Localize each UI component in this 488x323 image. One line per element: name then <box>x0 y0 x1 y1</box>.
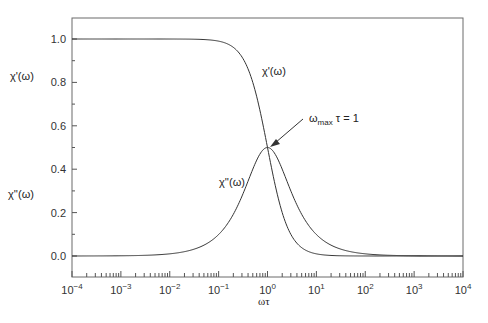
x-axis-label: ωτ <box>258 295 270 307</box>
x-tick-label: 10−2 <box>159 282 181 296</box>
y-axis: 0.00.20.40.60.81.0 <box>51 33 77 262</box>
side-label-chi-double-prime: χ''(ω) <box>8 188 34 200</box>
annotation-text: ωmax τ = 1 <box>309 112 359 127</box>
x-axis: 10−410−310−210−1100101102103104 <box>61 271 472 296</box>
x-tick-label: 10−4 <box>61 282 83 296</box>
curve-label-chi-double-prime: χ''(ω) <box>219 176 245 188</box>
peak-annotation: ωmax τ = 1 <box>270 112 359 147</box>
chart: 0.00.20.40.60.81.0 10−410−310−210−110010… <box>0 0 488 323</box>
x-tick-label: 10−3 <box>110 282 132 296</box>
y-tick-label: 1.0 <box>51 33 66 45</box>
y-tick-label: 0.6 <box>51 120 66 132</box>
annotation-arrow-line <box>275 119 303 143</box>
y-tick-label: 0.0 <box>51 250 66 262</box>
side-label-chi-prime: χ'(ω) <box>10 70 34 82</box>
y-tick-label: 0.8 <box>51 76 66 88</box>
x-tick-label: 101 <box>308 282 325 296</box>
x-tick-label: 104 <box>455 282 472 296</box>
x-tick-label: 102 <box>357 282 374 296</box>
y-tick-label: 0.2 <box>51 207 66 219</box>
y-tick-label: 0.4 <box>51 163 66 175</box>
chi-double-prime-curve <box>72 148 463 256</box>
x-tick-label: 10−1 <box>208 282 230 296</box>
x-tick-label: 103 <box>406 282 423 296</box>
curve-label-chi-prime: χ'(ω) <box>262 65 286 77</box>
x-tick-label: 100 <box>259 282 276 296</box>
